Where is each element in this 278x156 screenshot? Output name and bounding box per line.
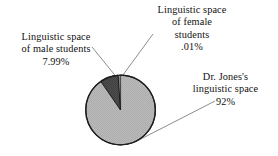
callout-male-students: Linguistic space of male students 7.99% xyxy=(4,31,108,68)
callout-dr-jones: Dr. Jones's linguistic space 92% xyxy=(176,71,275,108)
pie-chart-figure: Linguistic space of female students .01%… xyxy=(0,0,278,156)
callout-female-line1: Linguistic space xyxy=(143,4,241,16)
callout-jones-line1: Dr. Jones's xyxy=(176,71,275,83)
callout-female-students: Linguistic space of female students .01% xyxy=(143,4,241,54)
callout-female-line2: of female xyxy=(143,16,241,28)
callout-male-line1: Linguistic space xyxy=(4,31,108,43)
callout-male-line2: of male students xyxy=(4,43,108,55)
callout-jones-line2: linguistic space xyxy=(176,83,275,95)
callout-jones-value: 92% xyxy=(176,96,275,108)
callout-male-value: 7.99% xyxy=(4,56,108,68)
callout-female-value: .01% xyxy=(143,41,241,53)
callout-female-line3: students xyxy=(143,29,241,41)
